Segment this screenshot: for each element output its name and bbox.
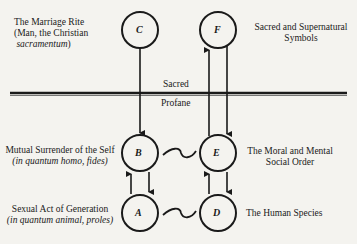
label-profane: Profane bbox=[161, 98, 191, 109]
label-human-species: The Human Species bbox=[246, 208, 323, 219]
tilde-b-e bbox=[163, 149, 196, 158]
label-moral-order: The Moral and Mental Social Order bbox=[240, 146, 340, 168]
node-a-letter: A bbox=[135, 207, 142, 218]
label-marriage-rite: The Marriage Rite (Man, the Christian sa… bbox=[14, 17, 88, 50]
node-f-letter: F bbox=[214, 24, 221, 35]
label-sexual-act: Sexual Act of Generation (in quantum ani… bbox=[0, 204, 120, 226]
label-sacred: Sacred bbox=[163, 79, 189, 90]
node-e-letter: E bbox=[213, 147, 220, 158]
label-sacred-symbols: Sacred and Supernatural Symbols bbox=[246, 22, 356, 44]
node-c-letter: C bbox=[136, 24, 143, 35]
node-b-letter: B bbox=[135, 147, 142, 158]
label-mutual-surrender: Mutual Surrender of the Self (in quantum… bbox=[0, 145, 120, 167]
node-d-letter: D bbox=[213, 207, 220, 218]
tilde-a-d bbox=[163, 209, 196, 218]
